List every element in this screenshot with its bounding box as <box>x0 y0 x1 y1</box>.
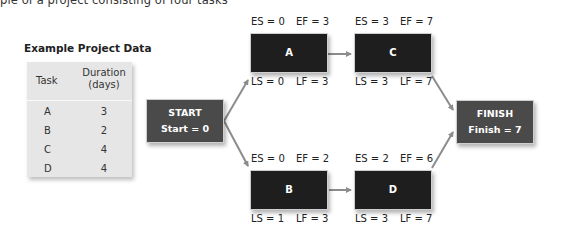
start-title: START <box>147 107 223 119</box>
arrow-c-to-finish <box>432 76 453 110</box>
task-a-ef: EF = 3 <box>296 16 329 27</box>
start-value: Start = 0 <box>147 123 223 135</box>
task-b-lf: LF = 3 <box>296 213 328 224</box>
task-c-ef: EF = 7 <box>400 16 433 27</box>
arrow-start-to-a <box>224 80 248 121</box>
finish-node: FINISH Finish = 7 <box>456 100 534 144</box>
finish-value: Finish = 7 <box>457 124 533 136</box>
task-a-node: A <box>250 33 328 73</box>
task-b-node: B <box>250 170 328 210</box>
task-a-ls: LS = 0 <box>251 76 284 87</box>
arrow-d-to-finish <box>432 132 453 168</box>
task-b-ls: LS = 1 <box>251 213 284 224</box>
task-d-ls: LS = 3 <box>355 213 388 224</box>
task-d-es: ES = 2 <box>355 153 389 164</box>
task-c-es: ES = 3 <box>355 16 389 27</box>
task-c-node: C <box>354 33 432 73</box>
start-node: START Start = 0 <box>146 99 224 143</box>
task-a-es: ES = 0 <box>251 16 285 27</box>
task-c-label: C <box>355 34 431 72</box>
finish-title: FINISH <box>457 108 533 120</box>
task-c-lf: LF = 7 <box>400 76 432 87</box>
task-d-lf: LF = 7 <box>400 213 432 224</box>
task-d-label: D <box>355 171 431 209</box>
task-a-label: A <box>251 34 327 72</box>
arrow-start-to-b <box>224 121 248 166</box>
task-c-ls: LS = 3 <box>355 76 388 87</box>
task-a-lf: LF = 3 <box>296 76 328 87</box>
task-b-es: ES = 0 <box>251 153 285 164</box>
task-b-label: B <box>251 171 327 209</box>
task-d-node: D <box>354 170 432 210</box>
task-b-ef: EF = 2 <box>296 153 329 164</box>
task-d-ef: EF = 6 <box>400 153 433 164</box>
